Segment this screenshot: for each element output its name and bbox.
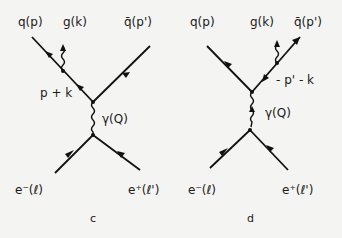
arrow-icon	[65, 150, 74, 158]
label-quark: q(p)	[18, 15, 43, 29]
vertex	[275, 61, 279, 65]
label-positron: e⁺(ℓ')	[282, 183, 313, 197]
label-positron: e⁺(ℓ')	[128, 183, 159, 197]
quark-line	[207, 46, 252, 92]
caption-c: c	[90, 212, 96, 225]
label-photon: γ(Q)	[102, 112, 128, 126]
vertex	[61, 69, 65, 73]
arrow-icon	[60, 44, 66, 51]
arrow-icon	[274, 40, 280, 47]
caption-d: d	[247, 212, 254, 225]
label-antiquark: q̄(p')	[294, 15, 322, 29]
label-gluon: g(k)	[250, 15, 274, 29]
antiquark-line	[93, 46, 150, 102]
label-electron: e⁻(ℓ)	[15, 183, 43, 197]
label-antiquark: q̄(p')	[124, 15, 152, 29]
label-quark: q(p)	[190, 15, 215, 29]
photon-line	[92, 102, 95, 135]
diagram-d: q(p) g(k) q̄(p') - p' - k γ(Q) e⁻(ℓ) e⁺(…	[188, 15, 322, 225]
label-electron: e⁻(ℓ)	[188, 183, 216, 197]
positron-line	[93, 135, 140, 170]
label-internal-momentum: - p' - k	[276, 73, 314, 87]
feynman-diagrams: q(p) g(k) q̄(p') p + k γ(Q) e⁻(ℓ) e⁺(ℓ')…	[0, 0, 342, 238]
diagram-c: q(p) g(k) q̄(p') p + k γ(Q) e⁻(ℓ) e⁺(ℓ')…	[15, 15, 159, 225]
label-gluon: g(k)	[63, 15, 87, 29]
label-photon: γ(Q)	[265, 106, 291, 120]
electron-line	[55, 135, 93, 173]
electron-line	[210, 130, 250, 168]
label-internal-momentum: p + k	[40, 86, 72, 100]
arrow-icon	[122, 72, 130, 78]
